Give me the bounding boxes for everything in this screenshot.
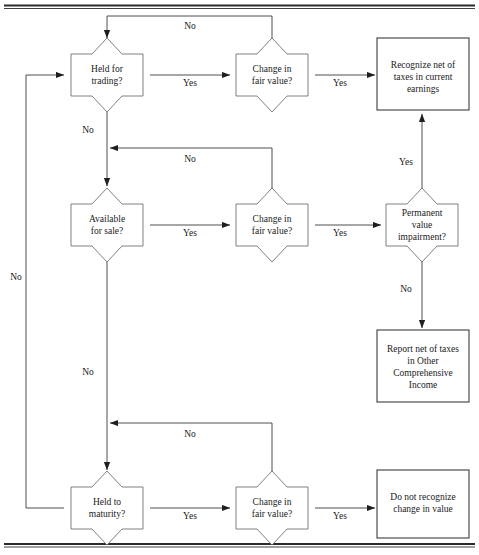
decision-label: fair value?	[252, 509, 292, 519]
edge-label-afs-no: No	[82, 367, 94, 377]
decision-change-fair-value-1[interactable]: Change in fair value?	[236, 38, 308, 112]
decision-label: Permanent	[402, 208, 443, 218]
decision-held-to-maturity[interactable]: Held to maturity?	[71, 471, 143, 545]
edge-label-cfv3-no: No	[184, 429, 196, 439]
terminal-label: Report net of taxes	[387, 344, 459, 354]
flowchart-figure: Held for trading? Change in fair value? …	[0, 0, 479, 555]
edge-label-htm-yes: Yes	[183, 511, 197, 521]
edge-label-cfv1-yes: Yes	[333, 78, 347, 88]
decision-label: Available	[89, 214, 125, 224]
decision-available-for-sale[interactable]: Available for sale?	[71, 188, 143, 262]
terminal-do-not-recognize[interactable]: Do not recognize change in value	[377, 470, 469, 538]
decision-change-fair-value-2[interactable]: Change in fair value?	[236, 188, 308, 262]
edge-label-hft-yes: Yes	[183, 78, 197, 88]
decision-label: maturity?	[89, 509, 125, 519]
edge-label-htm-no-left: No	[10, 272, 22, 282]
terminal-label: Do not recognize	[390, 492, 455, 502]
edge-label-cfv3-yes: Yes	[333, 511, 347, 521]
terminal-label: Income	[409, 380, 438, 390]
edge-label-hft-no: No	[82, 125, 94, 135]
edge-label-pvi-yes: Yes	[399, 157, 413, 167]
decision-label: impairment?	[398, 232, 446, 242]
decision-change-fair-value-3[interactable]: Change in fair value?	[236, 471, 308, 545]
bottom-rule	[4, 544, 475, 547]
decision-label: value	[412, 220, 433, 230]
decision-held-for-trading[interactable]: Held for trading?	[71, 38, 143, 112]
terminal-label: taxes in current	[394, 72, 453, 82]
decision-label: Held for	[91, 64, 124, 74]
decision-label: Change in	[253, 497, 292, 507]
edge-label-afs-yes: Yes	[183, 228, 197, 238]
edge-label-cfv1-no: No	[184, 21, 196, 31]
decision-label: Change in	[253, 214, 292, 224]
flowchart-canvas: Held for trading? Change in fair value? …	[0, 0, 479, 555]
edge-htm-no-return	[26, 75, 64, 508]
decision-label: for sale?	[91, 226, 123, 236]
edge-label-pvi-no: No	[400, 284, 412, 294]
decision-label: Change in	[253, 64, 292, 74]
decision-label: fair value?	[252, 226, 292, 236]
terminal-report-other-comprehensive-income[interactable]: Report net of taxes in Other Comprehensi…	[377, 330, 469, 402]
terminal-label: earnings	[407, 84, 439, 94]
decision-label: trading?	[91, 76, 122, 86]
edge-label-cfv2-no: No	[184, 154, 196, 164]
decision-label: fair value?	[252, 76, 292, 86]
terminal-label: in Other	[407, 356, 439, 366]
decision-permanent-value-impairment[interactable]: Permanent value impairment?	[386, 188, 458, 262]
terminal-label: Comprehensive	[393, 368, 453, 378]
terminal-recognize-current-earnings[interactable]: Recognize net of taxes in current earnin…	[377, 38, 469, 110]
edge-label-cfv2-yes: Yes	[333, 228, 347, 238]
terminal-label: change in value	[393, 504, 453, 514]
terminal-label: Recognize net of	[391, 60, 456, 70]
decision-label: Held to	[93, 497, 121, 507]
top-rule	[4, 6, 475, 9]
